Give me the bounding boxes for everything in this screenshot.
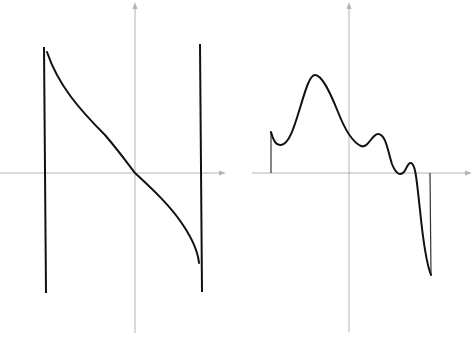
left-panel	[0, 2, 226, 333]
right-y-axis-arrow-icon	[347, 2, 352, 9]
left-vertical-line-left	[44, 47, 46, 293]
left-x-axis-arrow-icon	[219, 171, 226, 176]
right-x-axis-arrow-icon	[465, 171, 472, 176]
figure-canvas	[0, 0, 472, 337]
left-y-axis-arrow-icon	[133, 2, 138, 9]
right-drop-line-end	[430, 173, 431, 275]
left-vertical-line-right	[200, 44, 202, 292]
right-curve	[271, 75, 431, 275]
left-curve	[47, 52, 199, 263]
right-panel	[252, 2, 472, 332]
